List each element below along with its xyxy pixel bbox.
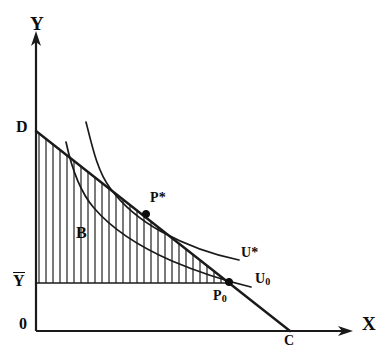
figure-canvas: Y X 0 Y D C B P* P0 U* U0 <box>0 0 389 363</box>
point-d-label: D <box>16 119 28 135</box>
budget-region-hatching <box>39 100 227 300</box>
curve-u-star-label: U* <box>241 246 259 260</box>
point-p-zero-label: P0 <box>213 289 227 304</box>
indifference-curve-diagram <box>0 0 389 363</box>
curve-u-zero-base: U <box>255 271 265 286</box>
x-axis-label: X <box>362 314 376 333</box>
y-bar-label: Y <box>13 272 25 289</box>
point-c-label: C <box>284 334 294 348</box>
point-p-zero-marker <box>225 278 232 285</box>
curve-u-zero-subscript: 0 <box>265 276 270 287</box>
origin-label: 0 <box>19 316 27 332</box>
point-p-star-marker <box>142 210 149 217</box>
point-p-zero-subscript: 0 <box>222 293 227 304</box>
y-bar-text: Y <box>13 272 25 289</box>
point-p-zero-base: P <box>213 288 222 303</box>
y-axis-label: Y <box>30 14 44 33</box>
budget-region-label: B <box>76 225 87 241</box>
point-p-star-label: P* <box>150 191 166 205</box>
curve-u-zero-label: U0 <box>255 272 271 287</box>
